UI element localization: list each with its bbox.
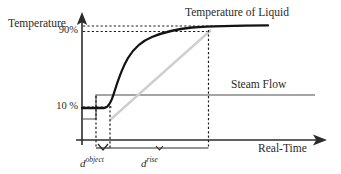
d-object-superscript: object [86,155,104,164]
figure-step-response: Temperature Temperature of Liquid Steam … [0,0,341,174]
d-rise-label: drise [141,156,158,169]
y-tick-label-10: 10 % [48,101,78,112]
temperature-curve [82,25,268,108]
d-rise-superscript: rise [147,155,158,164]
y-tick-label-90: 90% [52,25,78,36]
tangent-line [110,30,211,120]
temperature-of-liquid-label: Temperature of Liquid [185,7,289,19]
d-object-arrow-marker [98,144,108,150]
steam-flow-label: Steam Flow [231,79,286,91]
d-object-label: dobject [80,156,104,169]
x-axis-label: Real-Time [258,143,307,155]
